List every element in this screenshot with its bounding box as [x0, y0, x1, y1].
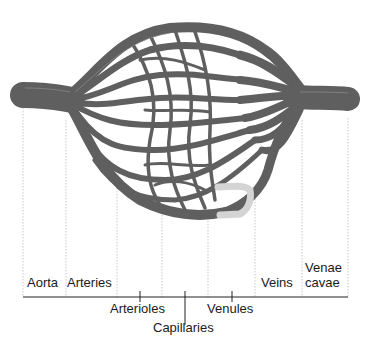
label-venae-cavae-line1: Venae — [305, 261, 342, 275]
label-arteries: Arteries — [67, 276, 112, 290]
vessel-network — [23, 27, 348, 215]
label-arterioles: Arterioles — [110, 302, 165, 316]
label-aorta: Aorta — [27, 276, 58, 290]
label-venae-cavae-line2: cavae — [305, 276, 340, 290]
label-veins: Veins — [261, 276, 293, 290]
label-venules: Venules — [207, 302, 253, 316]
label-capillaries: Capillaries — [153, 321, 214, 335]
vessel-diagram — [0, 0, 366, 359]
guide-lines — [23, 108, 348, 297]
